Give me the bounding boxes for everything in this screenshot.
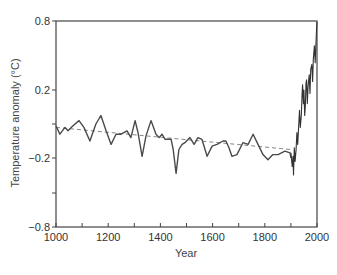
reconstruction-line bbox=[56, 116, 291, 174]
x-axis-title: Year bbox=[175, 247, 198, 259]
y-tick-label: −0.2 bbox=[28, 152, 50, 164]
x-tick-label: 1600 bbox=[200, 231, 224, 243]
x-tick-label: 1400 bbox=[148, 231, 172, 243]
x-tick-label: 1200 bbox=[96, 231, 120, 243]
x-tick-label: 1800 bbox=[253, 231, 277, 243]
y-tick-label: −0.8 bbox=[28, 221, 50, 233]
plot-frame bbox=[56, 21, 317, 227]
x-tick-label: 2000 bbox=[305, 231, 329, 243]
instrumental-line bbox=[291, 22, 317, 175]
y-tick-label: 0.8 bbox=[35, 15, 50, 27]
x-axis: 100012001400160018002000 bbox=[44, 223, 329, 243]
temperature-chart: 100012001400160018002000 0.80.2−0.2−0.8 … bbox=[0, 0, 337, 275]
y-tick-label: 0.2 bbox=[35, 84, 50, 96]
y-axis: 0.80.2−0.2−0.8 bbox=[28, 15, 56, 233]
y-axis-title: Temperature anomaly (°C) bbox=[9, 58, 21, 187]
